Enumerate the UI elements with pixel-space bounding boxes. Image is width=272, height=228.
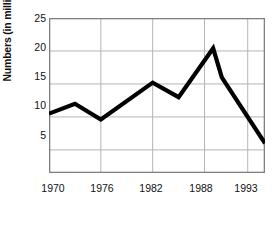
- x-tick-label-1970: 1970: [33, 182, 73, 194]
- plot-svg: [49, 18, 265, 173]
- data-series-line: [49, 48, 265, 143]
- y-tick-label-15: 15: [22, 71, 46, 81]
- plot-area: [49, 18, 265, 173]
- x-tick-label-1976: 1976: [82, 182, 122, 194]
- x-tick-label-1982: 1982: [131, 182, 171, 194]
- x-tick-label-1993: 1993: [226, 182, 266, 194]
- line-chart-figure: Numbers (in millions) 25 20 15 10 5 1970…: [0, 0, 272, 228]
- y-tick-label-25: 25: [22, 13, 46, 23]
- chart-title-clipped: [0, 0, 272, 7]
- y-tick-label-20: 20: [22, 42, 46, 52]
- y-axis-title: Numbers (in millions): [1, 0, 13, 105]
- y-tick-label-5: 5: [22, 130, 46, 140]
- y-tick-label-10: 10: [22, 100, 46, 110]
- x-tick-label-1988: 1988: [181, 182, 221, 194]
